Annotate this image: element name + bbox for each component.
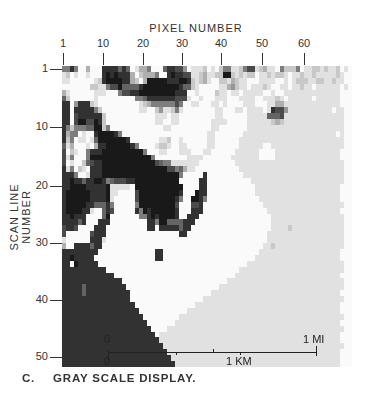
scale-km-zero: 0 (104, 355, 110, 367)
y-tick-label: 10 (18, 120, 48, 132)
scale-bar-line (108, 352, 316, 353)
y-axis-title: SCAN LINE NUMBER (8, 157, 32, 277)
scale-right-end (316, 346, 317, 356)
y-tick-label: 30 (18, 236, 48, 248)
y-tick-mark (50, 243, 62, 244)
x-tick-label: 1 (60, 37, 66, 49)
x-tick-mark (182, 53, 183, 65)
x-tick-label: 40 (215, 37, 227, 49)
x-tick-mark (221, 53, 222, 65)
x-tick-mark (103, 53, 104, 65)
y-tick-label: 20 (18, 179, 48, 191)
scale-mi-label: 1 MI (303, 333, 324, 345)
y-tick-mark (50, 186, 62, 187)
x-tick-mark (304, 53, 305, 65)
x-tick-mark (63, 53, 64, 65)
x-tick-label: 10 (97, 37, 109, 49)
y-tick-mark (50, 300, 62, 301)
figure-caption: C.GRAY SCALE DISPLAY. (22, 372, 196, 384)
gray-scale-raster-image (62, 66, 352, 367)
y-tick-mark (50, 127, 62, 128)
scale-mi-zero: 0 (104, 333, 110, 345)
scale-tick (176, 352, 177, 355)
scale-tick (213, 349, 214, 353)
y-tick-mark (50, 69, 62, 70)
x-tick-label: 60 (298, 37, 310, 49)
y-tick-label: 1 (18, 62, 48, 74)
x-tick-label: 50 (256, 37, 268, 49)
scale-km-label: 1 KM (226, 355, 252, 367)
x-tick-label: 30 (176, 37, 188, 49)
x-tick-mark (143, 53, 144, 65)
y-tick-label: 50 (18, 350, 48, 362)
x-axis-title: PIXEL NUMBER (0, 22, 372, 34)
caption-text: GRAY SCALE DISPLAY. (53, 372, 196, 384)
x-tick-label: 20 (137, 37, 149, 49)
y-tick-label: 40 (18, 293, 48, 305)
y-tick-mark (50, 357, 62, 358)
caption-letter: C. (22, 372, 35, 384)
x-tick-mark (262, 53, 263, 65)
